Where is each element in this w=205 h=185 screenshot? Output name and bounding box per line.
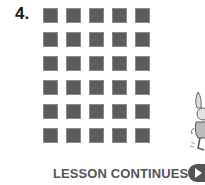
array-square <box>43 128 58 143</box>
array-square <box>43 80 58 95</box>
array-square <box>66 56 81 71</box>
array-square <box>89 8 104 23</box>
problem-number: 4. <box>15 4 29 24</box>
array-square <box>89 56 104 71</box>
lesson-continues-label: LESSON CONTINUES <box>53 166 188 181</box>
array-square <box>66 128 81 143</box>
array-square <box>89 104 104 119</box>
array-square <box>43 104 58 119</box>
array-square <box>135 80 150 95</box>
play-arrow-icon[interactable] <box>188 164 205 182</box>
array-square <box>112 8 127 23</box>
array-square <box>89 32 104 47</box>
square-array <box>43 8 150 143</box>
array-square <box>66 104 81 119</box>
array-square <box>66 8 81 23</box>
array-square <box>89 128 104 143</box>
array-square <box>135 32 150 47</box>
rabbit-character-icon <box>190 90 205 154</box>
array-square <box>43 56 58 71</box>
array-square <box>135 56 150 71</box>
array-square <box>43 32 58 47</box>
array-square <box>66 32 81 47</box>
array-square <box>112 104 127 119</box>
array-square <box>66 80 81 95</box>
array-square <box>135 128 150 143</box>
array-square <box>112 56 127 71</box>
array-square <box>112 32 127 47</box>
array-square <box>135 8 150 23</box>
array-square <box>135 104 150 119</box>
array-square <box>89 80 104 95</box>
array-square <box>112 128 127 143</box>
array-square <box>43 8 58 23</box>
array-square <box>112 80 127 95</box>
